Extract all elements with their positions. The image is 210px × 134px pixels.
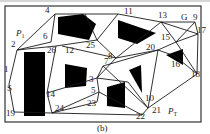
node-label-15: 15 [161, 32, 171, 42]
node-label-13: 13 [158, 10, 168, 20]
node-label-11: 11 [124, 6, 133, 16]
node-label-9: 9 [193, 12, 198, 22]
visibility-graph-diagram: 1 2 3 4 5 6 7 8 9 10 11 12 13 14 15 16 1… [0, 0, 210, 134]
node-label-22: 22 [136, 111, 145, 121]
node-label-4: 4 [45, 5, 50, 15]
node-label-5: 5 [91, 85, 96, 95]
goal-label: G [181, 12, 188, 22]
p1-label: P1 [15, 28, 25, 39]
node-label-19: 19 [6, 108, 16, 118]
node-label-8: 8 [108, 51, 113, 61]
node-label-17: 17 [197, 25, 207, 35]
figure-caption: (b) [97, 123, 108, 133]
node-label-2: 2 [11, 39, 16, 49]
node-label-21: 21 [152, 105, 161, 115]
node-label-25: 25 [86, 40, 96, 50]
node-label-6: 6 [43, 31, 48, 41]
node-label-14: 14 [46, 89, 56, 99]
obstacle-mid-triangle [129, 65, 142, 93]
node-label-23: 23 [87, 98, 97, 108]
node-label-20: 20 [146, 42, 156, 52]
node-label-1: 1 [4, 64, 9, 74]
obstacle-left-tall [24, 52, 45, 116]
node-label-18: 18 [191, 69, 201, 79]
obstacle-top-right [118, 20, 156, 44]
obstacle-top-pentagon [58, 14, 96, 40]
node-label-12: 12 [65, 45, 74, 55]
pt-label: PT [167, 106, 178, 117]
node-label-26: 26 [47, 45, 57, 55]
node-label-16: 16 [171, 59, 181, 69]
node-label-3: 3 [89, 74, 94, 84]
node-label-24: 24 [55, 103, 65, 113]
node-label-10: 10 [145, 93, 155, 103]
start-label: S [7, 83, 12, 93]
